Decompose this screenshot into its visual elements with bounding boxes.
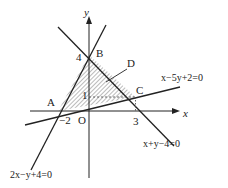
equation-x-5y-2: x−5y+2=0 xyxy=(161,72,203,83)
point-c-label: C xyxy=(136,84,143,96)
x-axis-arrow-icon xyxy=(172,108,180,114)
y-tick-1: 1 xyxy=(82,89,88,101)
point-d-label: D xyxy=(127,57,135,69)
point-b-label: B xyxy=(96,47,103,59)
feasible-region xyxy=(58,55,136,111)
x-tick-3: 3 xyxy=(133,115,139,127)
x-tick-neg2: −2 xyxy=(59,114,71,126)
point-a-label: A xyxy=(47,96,55,108)
y-axis-label: y xyxy=(83,6,89,18)
origin-label: O xyxy=(78,114,86,126)
equation-x-y-4: x+y−4=0 xyxy=(143,138,180,149)
equation-2x-y-4: 2x−y+4=0 xyxy=(10,169,52,180)
linear-programming-figure: y x O −2 3 4 1 A B C D x−5y+2=0 x+y−4=0 … xyxy=(0,0,228,188)
y-tick-4: 4 xyxy=(76,51,82,63)
x-axis-label: x xyxy=(182,107,188,119)
coordinate-plane: y x O −2 3 4 1 A B C D x−5y+2=0 x+y−4=0 … xyxy=(0,0,228,188)
